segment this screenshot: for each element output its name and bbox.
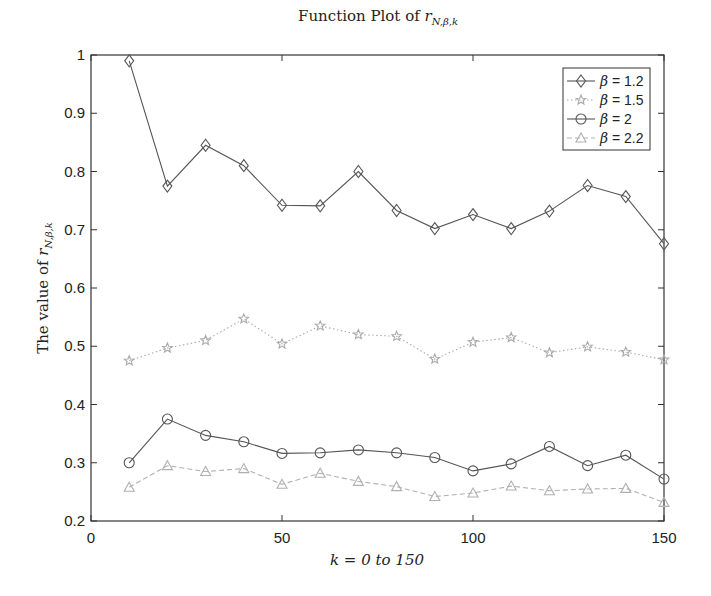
- series-4: [124, 461, 669, 507]
- y-tick-label: 0.8: [64, 163, 85, 180]
- y-tick-label: 0.6: [64, 279, 85, 296]
- y-tick-label: 0.2: [64, 512, 85, 529]
- star-marker: [201, 335, 211, 344]
- x-axis-label: k = 0 to 150: [330, 551, 424, 569]
- star-marker: [354, 330, 364, 339]
- legend-label: β = 1.5: [599, 92, 644, 108]
- chart-title: Function Plot of rN,β,k: [298, 7, 458, 27]
- x-tick-label: 0: [87, 529, 95, 546]
- series-line: [129, 419, 664, 479]
- x-tick-label: 150: [651, 529, 676, 546]
- series-3: [124, 414, 669, 484]
- triangle-marker: [621, 483, 631, 492]
- star-marker: [315, 321, 325, 330]
- star-marker: [239, 314, 249, 323]
- y-tick-label: 0.5: [64, 337, 85, 354]
- line-chart: Function Plot of rN,β,k 0.20.30.40.50.60…: [0, 0, 711, 596]
- y-axis-label: The value of rN,β,k: [34, 222, 54, 354]
- y-tick-label: 0.4: [64, 396, 85, 413]
- star-marker: [468, 337, 478, 346]
- y-tick-label: 0.3: [64, 454, 85, 471]
- legend-label: β = 2: [599, 111, 632, 127]
- legend-label: β = 1.2: [599, 73, 644, 89]
- star-marker: [621, 347, 631, 356]
- x-tick-label: 100: [460, 529, 485, 546]
- y-tick-label: 0.9: [64, 104, 85, 121]
- y-tick-label: 1: [77, 46, 85, 63]
- legend: β = 1.2β = 1.5β = 2β = 2.2: [563, 68, 650, 150]
- series-2: [124, 314, 668, 365]
- legend-label: β = 2.2: [599, 130, 644, 146]
- y-tick-label: 0.7: [64, 221, 85, 238]
- series-line: [129, 466, 664, 503]
- x-tick-label: 50: [274, 529, 291, 546]
- star-marker: [545, 348, 555, 357]
